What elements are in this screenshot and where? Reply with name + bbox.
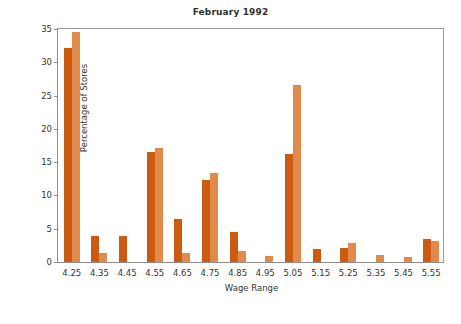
bar	[64, 48, 72, 262]
bar	[210, 173, 218, 262]
bar	[431, 241, 439, 262]
y-tick-label: 5	[34, 225, 52, 234]
x-tick-label: 5.55	[411, 268, 451, 278]
bar	[340, 248, 348, 262]
y-tick-label: 25	[34, 92, 52, 101]
bar	[348, 243, 356, 262]
bar	[119, 236, 127, 262]
y-tick-label: 0	[34, 258, 52, 267]
chart-title: February 1992	[0, 7, 461, 17]
y-tick-mark	[54, 229, 58, 230]
bar	[174, 219, 182, 262]
bar	[182, 253, 190, 262]
y-tick-mark	[54, 62, 58, 63]
y-axis-label: Percentage of Stores	[79, 38, 89, 178]
bar-group	[119, 29, 135, 262]
y-tick-label: 10	[34, 191, 52, 200]
bar	[313, 249, 321, 262]
x-axis-label: Wage Range	[58, 283, 445, 293]
bar	[230, 232, 238, 262]
bar-group	[91, 29, 107, 262]
bar	[155, 148, 163, 263]
bar	[91, 236, 99, 262]
bar-group	[230, 29, 246, 262]
bar-group	[174, 29, 190, 262]
bar-group	[257, 29, 273, 262]
y-tick-mark	[54, 29, 58, 30]
y-tick-label: 35	[34, 25, 52, 34]
bar-group	[396, 29, 412, 262]
bar-group	[285, 29, 301, 262]
bar-group	[313, 29, 329, 262]
bar	[265, 256, 273, 262]
bar-group	[340, 29, 356, 262]
y-tick-mark	[54, 162, 58, 163]
bar-group	[64, 29, 80, 262]
bar	[72, 32, 80, 262]
bar	[99, 253, 107, 262]
bar-group	[423, 29, 439, 262]
y-tick-mark	[54, 96, 58, 97]
y-tick-label: 20	[34, 125, 52, 134]
bar	[423, 239, 431, 262]
bar	[285, 154, 293, 263]
bar-group	[202, 29, 218, 262]
bar	[404, 257, 412, 262]
y-tick-mark	[54, 129, 58, 130]
chart-container: February 1992 Percentage of Stores 05101…	[0, 0, 461, 324]
y-tick-label: 30	[34, 58, 52, 67]
bar-group	[147, 29, 163, 262]
bar	[293, 85, 301, 262]
bar	[376, 255, 384, 262]
plot-area: Percentage of Stores 05101520253035 4.25…	[57, 28, 444, 263]
y-tick-label: 15	[34, 158, 52, 167]
y-tick-mark	[54, 195, 58, 196]
bar	[238, 251, 246, 262]
bar	[147, 152, 155, 263]
bar-group	[368, 29, 384, 262]
y-tick-mark	[54, 262, 58, 263]
bar	[202, 180, 210, 262]
